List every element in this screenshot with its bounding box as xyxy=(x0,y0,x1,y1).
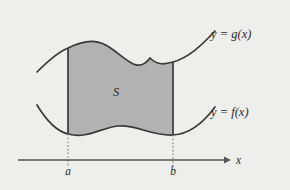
upper-curve-label: y = g(x) xyxy=(209,27,251,41)
x-axis-label: x xyxy=(235,154,242,166)
lower-curve-label: y = f(x) xyxy=(209,105,249,119)
region-between-curves-diagram: y = g(x) y = f(x) S a b x xyxy=(0,0,290,190)
tick-label-b: b xyxy=(170,165,176,177)
figure-container: y = g(x) y = f(x) S a b x xyxy=(0,0,290,190)
tick-label-a: a xyxy=(65,165,71,177)
region-label-s: S xyxy=(113,85,120,99)
